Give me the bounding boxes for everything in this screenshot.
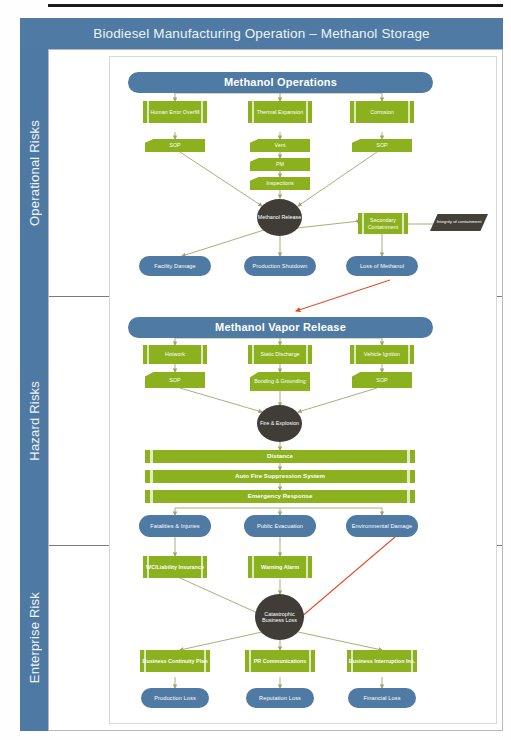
top-event-catastrophic-business-loss[interactable]: Catastrophic Business Loss [255, 594, 304, 640]
swimlane-label-hazard: Hazard Risks [20, 296, 48, 545]
barrier-emergency-response[interactable]: Emergency Response [145, 490, 415, 503]
cause-thermal-expansion[interactable]: Thermal Expansion [248, 101, 312, 123]
cause-vehicle-ignition[interactable]: Vehicle Ignition [350, 345, 414, 364]
consequence-environmental-damage[interactable]: Environmental Damage [346, 515, 418, 537]
recovery-pr-communications[interactable]: PR Communications [245, 650, 315, 672]
cause-hotwork[interactable]: Hotwork [143, 345, 207, 364]
consequence-fatalities-injuries[interactable]: Fatalities & Injuries [139, 515, 211, 537]
control-wc-liability-insurance[interactable]: WC/Liability Insurance [143, 556, 207, 578]
page-title: Biodiesel Manufacturing Operation – Meth… [20, 18, 503, 49]
swimlane-label-enterprise: Enterprise Risk [20, 545, 48, 731]
cause-static-discharge[interactable]: Static Discharge [248, 345, 312, 364]
control-vent[interactable]: Vent [250, 139, 310, 152]
recovery-business-continuity-plan[interactable]: Business Continuity Plan [140, 650, 210, 672]
top-event-fire-explosion[interactable]: Fire & Explosion [257, 405, 302, 442]
top-event-methanol-release[interactable]: Methanol Release [257, 199, 302, 236]
control-sop-overfill[interactable]: SOP [145, 139, 205, 152]
cause-human-error-overfill[interactable]: Human Error Overfill [143, 101, 207, 123]
mitigation-input-integrity-of-containment[interactable]: Integrity of containment [430, 214, 488, 231]
consequence-loss-of-methanol[interactable]: Loss of Methanol [346, 256, 418, 276]
control-sop-vehicle[interactable]: SOP [352, 372, 412, 388]
consequence-reputation-loss[interactable]: Reputation Loss [246, 688, 314, 708]
consequence-facility-damage[interactable]: Facility Damage [139, 256, 211, 276]
barrier-auto-fire-suppression-system[interactable]: Auto Fire Suppression System [145, 470, 415, 483]
cause-corrosion[interactable]: Corrosion [350, 101, 414, 123]
mitigation-secondary-containment[interactable]: Secondary Containment [358, 213, 408, 234]
recovery-business-interruption-ins[interactable]: Business Interruption Ins. [347, 650, 417, 672]
control-sop-hotwork[interactable]: SOP [145, 372, 205, 388]
barrier-distance[interactable]: Distance [145, 450, 415, 463]
top-rule [48, 4, 503, 7]
bowtie-risk-diagram: Biodiesel Manufacturing Operation – Meth… [0, 0, 511, 740]
consequence-public-evacuation[interactable]: Public Evacuation [244, 515, 316, 537]
consequence-production-shutdown[interactable]: Production Shutdown [244, 256, 316, 276]
control-inspections[interactable]: Inspections [250, 177, 310, 190]
control-pm[interactable]: PM [250, 158, 310, 171]
operational-title[interactable]: Methanol Operations [128, 72, 433, 93]
consequence-financial-loss[interactable]: Financial Loss [348, 688, 416, 708]
control-sop-corrosion[interactable]: SOP [352, 139, 412, 152]
control-warning-alarm[interactable]: Warning Alarm [248, 556, 312, 578]
consequence-production-loss[interactable]: Production Loss [141, 688, 209, 708]
swimlane-label-operational: Operational Risks [20, 49, 48, 296]
hazard-title[interactable]: Methanol Vapor Release [128, 317, 433, 338]
control-bonding-grounding[interactable]: Bonding & Grounding [250, 372, 310, 391]
